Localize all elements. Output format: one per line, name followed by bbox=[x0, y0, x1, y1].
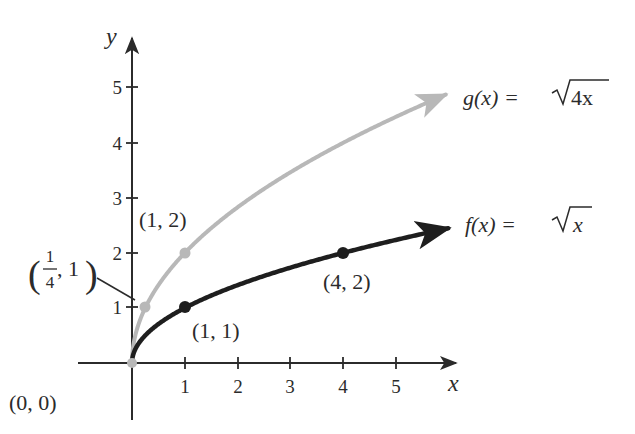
label-point-1-1: (1, 1) bbox=[192, 318, 240, 343]
graph-canvas: 1 2 3 4 5 1 2 3 4 5 x y (0, 0) (1, 2) (1… bbox=[0, 0, 635, 434]
x-tick-label: 5 bbox=[391, 376, 401, 397]
point-g-1-2 bbox=[180, 248, 191, 259]
f-fn-label: f(x) = bbox=[465, 212, 516, 237]
right-paren: ) bbox=[85, 253, 98, 296]
y-tick-label: 5 bbox=[113, 77, 123, 98]
y-tick-label: 4 bbox=[113, 133, 123, 154]
x-tick-label: 1 bbox=[180, 376, 190, 397]
left-paren: ( bbox=[28, 253, 41, 296]
y-tick-label: 3 bbox=[113, 188, 123, 209]
fraction-numerator: 1 bbox=[46, 247, 55, 266]
x-axis-label: x bbox=[447, 370, 459, 396]
legend-g: g(x) = 4x bbox=[463, 80, 609, 110]
point-markers bbox=[127, 247, 349, 368]
y-axis-label: y bbox=[104, 23, 117, 49]
point-g-quarter-1 bbox=[140, 302, 151, 313]
y-tick-labels: 1 2 3 4 5 bbox=[113, 77, 123, 318]
label-point-4-2: (4, 2) bbox=[323, 269, 371, 294]
label-origin: (0, 0) bbox=[9, 390, 57, 415]
f-radicand: x bbox=[572, 212, 583, 237]
x-tick-labels: 1 2 3 4 5 bbox=[180, 376, 401, 397]
x-tick-label: 2 bbox=[233, 376, 243, 397]
label-point-quarter-1: ( 1 4 , 1 ) bbox=[28, 247, 98, 296]
x-tick-label: 4 bbox=[338, 376, 348, 397]
point-f-1-1 bbox=[179, 301, 191, 313]
point-f-4-2 bbox=[337, 247, 349, 259]
g-fn-label: g(x) = bbox=[463, 85, 519, 110]
fraction-denominator: 4 bbox=[46, 273, 55, 292]
g-radicand: 4x bbox=[571, 85, 593, 110]
x-tick-label: 3 bbox=[285, 376, 295, 397]
y-tick-label: 2 bbox=[113, 243, 123, 264]
y-tick-label: 1 bbox=[113, 297, 123, 318]
point-origin bbox=[127, 358, 137, 368]
label-point-1-2: (1, 2) bbox=[139, 207, 187, 232]
legend-f: f(x) = x bbox=[465, 207, 592, 237]
fraction-rest: , 1 bbox=[57, 256, 79, 281]
radical-sign-icon bbox=[552, 207, 592, 231]
curve-f bbox=[132, 228, 448, 363]
